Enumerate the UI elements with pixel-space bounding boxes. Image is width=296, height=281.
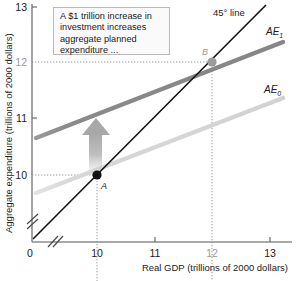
y-tick-12: 12	[15, 56, 27, 68]
x-tick-12: 12	[206, 247, 218, 259]
y-tick-11: 11	[16, 112, 27, 124]
x-tick-10: 10	[91, 247, 103, 259]
y-tick-0: 0	[27, 247, 33, 259]
callout-box: A $1 trillion increase in investment inc…	[53, 7, 170, 55]
data-point-a	[92, 170, 101, 179]
label-ae0: AE0	[263, 84, 281, 97]
label-45-degree-line: 45° line	[213, 7, 245, 18]
y-axis-title: Aggregate expenditure (trillions of 2000…	[3, 33, 14, 233]
y-tick-13: 13	[15, 1, 27, 13]
callout-text: A $1 trillion increase in investment inc…	[60, 11, 164, 57]
x-tick-13: 13	[264, 247, 276, 259]
x-axis-title: Real GDP (trillions of 2000 dollars)	[142, 262, 288, 273]
y-tick-10: 10	[15, 169, 27, 181]
label-point-a: A	[100, 181, 107, 191]
label-ae1: AE1	[265, 26, 283, 39]
economics-chart-figure: 13 12 11 10 0 10 11 12 13 Real GDP (tril…	[0, 0, 296, 281]
guide-lines	[32, 62, 212, 281]
label-point-b: B	[202, 47, 208, 57]
x-tick-11: 11	[150, 247, 161, 259]
data-point-b	[207, 57, 216, 66]
